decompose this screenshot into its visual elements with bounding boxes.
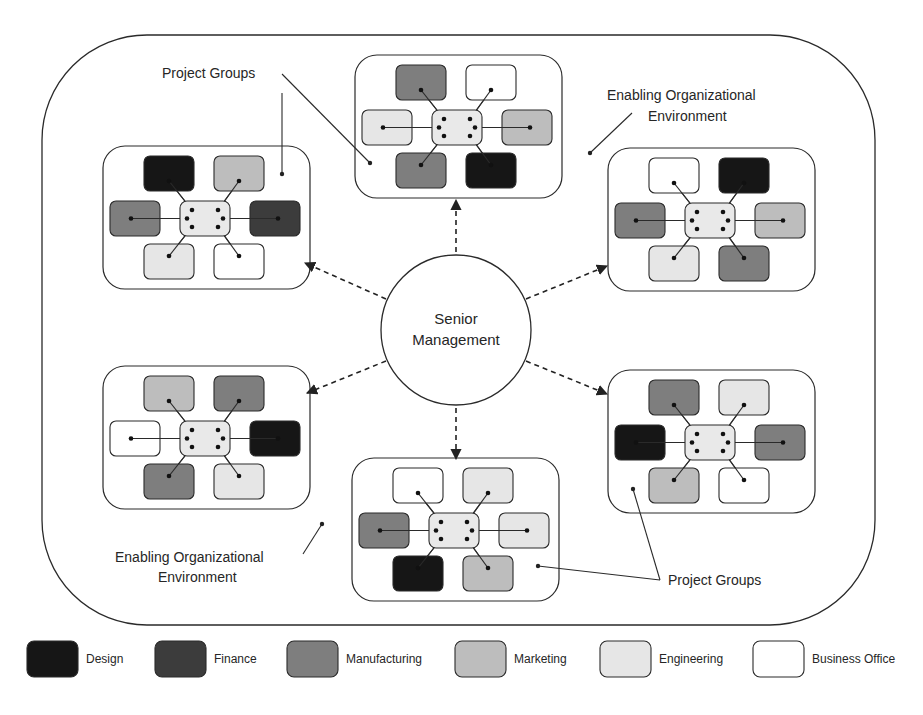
environment-label-top-line1: Enabling Organizational	[607, 87, 756, 103]
project-groups-label-top: Project Groups	[162, 65, 255, 81]
unit-top-left-business-office	[393, 468, 443, 503]
connector-dot	[276, 436, 281, 441]
connector-dot	[781, 218, 786, 223]
connector-dot	[378, 528, 383, 533]
connector-dot	[419, 88, 424, 93]
connector-dot	[190, 225, 195, 230]
connector-dot	[216, 225, 221, 230]
connector-dot	[216, 428, 221, 433]
unit-top-left-manufacturing	[649, 380, 699, 415]
connector-dot	[726, 440, 731, 445]
connector-dot	[672, 181, 677, 186]
unit-top-right-business-office	[466, 65, 516, 100]
unit-bottom-right-marketing	[463, 556, 513, 591]
connector-dot	[489, 88, 494, 93]
connector-dot	[781, 440, 786, 445]
connector-dot	[695, 449, 700, 454]
connector-dot	[419, 163, 424, 168]
unit-bottom-right-engineering	[214, 464, 264, 499]
connector-dot	[721, 210, 726, 215]
connector-dot	[695, 432, 700, 437]
project-group-top	[355, 55, 562, 198]
legend-item-marketing: Marketing	[455, 641, 567, 677]
legend-swatch	[287, 641, 338, 677]
project-group-bottom-right	[608, 370, 815, 513]
connector-dot	[634, 218, 639, 223]
project-group-top-right	[608, 148, 815, 291]
unit-top-right-design	[719, 158, 769, 193]
connector-dot	[442, 134, 447, 139]
legend-item-business-office: Business Office	[753, 641, 895, 677]
connector-dot	[525, 528, 530, 533]
connector-dot	[439, 520, 444, 525]
connector-dot	[672, 403, 677, 408]
legend-swatch	[155, 641, 206, 677]
legend-label: Marketing	[514, 652, 567, 666]
unit-bottom-left-manufacturing	[144, 464, 194, 499]
connector-dot	[672, 256, 677, 261]
connector-dot	[695, 227, 700, 232]
project-groups-label-bottom: Project Groups	[668, 572, 761, 588]
connector-dot	[167, 474, 172, 479]
connector-dot	[489, 163, 494, 168]
unit-bottom-left-engineering	[144, 244, 194, 279]
connector-dot	[416, 491, 421, 496]
connector-dot	[185, 216, 190, 221]
connector-dot	[167, 254, 172, 259]
connector-dot	[237, 399, 242, 404]
connector-dot	[465, 537, 470, 542]
connector-dot	[185, 436, 190, 441]
legend-item-manufacturing: Manufacturing	[287, 641, 422, 677]
connector-dot	[442, 117, 447, 122]
legend: DesignFinanceManufacturingMarketingEngin…	[27, 641, 895, 677]
connector-dot	[439, 537, 444, 542]
legend-item-finance: Finance	[155, 641, 257, 677]
organizational-diagram: Senior Management Project Groups Enablin…	[0, 0, 923, 715]
senior-management-label-line2: Management	[412, 331, 500, 348]
legend-swatch	[27, 641, 78, 677]
project-group-top-left	[103, 146, 310, 289]
connector-dot	[528, 125, 533, 130]
unit-top-right-engineering	[463, 468, 513, 503]
connector-dot	[221, 216, 226, 221]
connector-dot	[726, 218, 731, 223]
connector-dot	[468, 134, 473, 139]
callout-environment-bottom: Enabling Organizational Environment	[115, 522, 324, 585]
connector-dot	[470, 528, 475, 533]
unit-top-left-marketing	[144, 376, 194, 411]
unit-bottom-left-design	[393, 556, 443, 591]
legend-label: Finance	[214, 652, 257, 666]
connector-dot	[742, 181, 747, 186]
unit-bottom-left-manufacturing	[396, 153, 446, 188]
legend-label: Manufacturing	[346, 652, 422, 666]
connector-dot	[221, 436, 226, 441]
connector-dot	[695, 210, 700, 215]
connector-dot	[742, 403, 747, 408]
connector-dot	[167, 399, 172, 404]
connector-dot	[486, 566, 491, 571]
connector-dot	[486, 491, 491, 496]
connector-dot	[216, 208, 221, 213]
senior-management-node: Senior Management	[381, 255, 531, 405]
connector-dot	[721, 227, 726, 232]
connector-dot	[465, 520, 470, 525]
connector-dot	[190, 445, 195, 450]
project-group-bottom	[352, 458, 559, 601]
unit-top-left-manufacturing	[396, 65, 446, 100]
arrow-to-top-right-group	[526, 266, 607, 299]
arrow-to-bottom-left-group	[307, 361, 386, 393]
connector-dot	[190, 208, 195, 213]
connector-dot	[190, 428, 195, 433]
unit-top-left-design	[144, 156, 194, 191]
senior-management-label-line1: Senior	[434, 310, 477, 327]
unit-bottom-left-marketing	[649, 468, 699, 503]
legend-label: Design	[86, 652, 123, 666]
connector-dot	[721, 432, 726, 437]
unit-top-right-marketing	[214, 156, 264, 191]
connector-dot	[721, 449, 726, 454]
unit-bottom-left-engineering	[649, 246, 699, 281]
connector-dot	[468, 117, 473, 122]
connector-dot	[237, 254, 242, 259]
legend-swatch	[753, 641, 804, 677]
environment-label-bottom-line2: Environment	[158, 569, 237, 585]
